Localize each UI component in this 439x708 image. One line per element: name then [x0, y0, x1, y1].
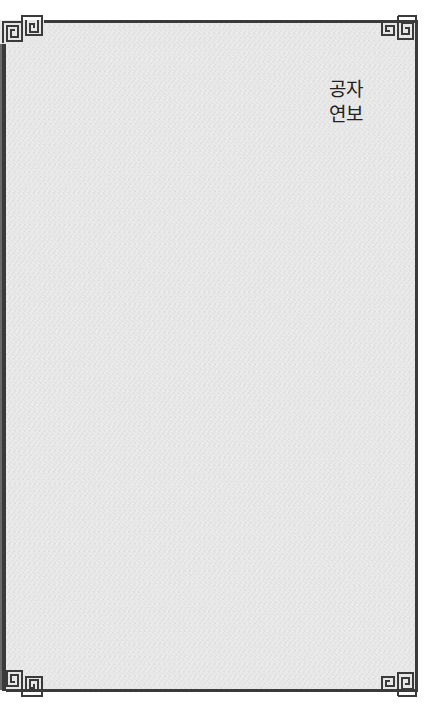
- meander-corner-top-left-icon: [0, 14, 44, 44]
- page-title: 공자 연보: [329, 77, 363, 127]
- meander-corner-bottom-right-icon: [376, 668, 420, 698]
- title-line-1: 공자: [329, 77, 363, 102]
- meander-corner-top-right-icon: [376, 14, 420, 44]
- border-top: [6, 20, 418, 23]
- border-bottom: [6, 689, 418, 692]
- title-line-2: 연보: [329, 102, 363, 127]
- book-page: 공자 연보: [0, 0, 439, 708]
- meander-corner-bottom-left-icon: [0, 668, 44, 698]
- page-spine-edge: [0, 21, 6, 690]
- border-right: [415, 20, 418, 692]
